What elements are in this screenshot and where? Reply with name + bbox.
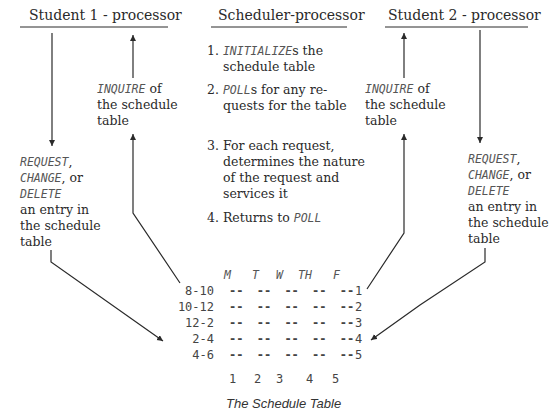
cell: -- — [257, 332, 271, 346]
row-number: 5 — [355, 348, 362, 362]
scheduler-header: Scheduler-processor — [218, 7, 365, 23]
row-label: 10-12 — [178, 300, 214, 314]
text: , or — [510, 167, 531, 182]
text: services it — [207, 186, 365, 202]
table-row: -- -- -- -- -- — [229, 332, 354, 346]
student1-modify-line — [51, 250, 163, 341]
text: table — [20, 234, 101, 250]
student2-modify-line — [371, 248, 485, 340]
cell: -- — [340, 284, 354, 298]
scheduler-step-4: 4. Returns to POLL — [207, 210, 321, 226]
student2-inquire-text: INQUIRE of the schedule table — [365, 81, 446, 129]
student1-header: Student 1 - processor — [29, 7, 182, 23]
cell: -- — [257, 348, 271, 362]
text: an entry in — [20, 202, 101, 218]
cell: -- — [257, 300, 271, 314]
col-header-m: M — [224, 268, 231, 282]
column-number: 3 — [276, 372, 283, 386]
student2-modify-text: REQUEST, CHANGE, or DELETE an entry in t… — [468, 151, 549, 247]
step-number: 3. — [207, 138, 219, 153]
col-header-w: W — [276, 268, 283, 282]
cell: -- — [340, 332, 354, 346]
row-label: 12-2 — [185, 316, 214, 330]
table-row: -- -- -- -- -- — [229, 300, 354, 314]
step-number: 2. — [207, 82, 219, 97]
table-row: -- -- -- -- -- — [229, 316, 354, 330]
text: an entry in — [468, 199, 549, 215]
row-number: 1 — [355, 284, 362, 298]
cell: -- — [229, 332, 243, 346]
cell: -- — [312, 348, 326, 362]
delete-command: DELETE — [468, 184, 510, 198]
change-command: CHANGE — [20, 171, 62, 185]
cell: -- — [229, 300, 243, 314]
request-command: REQUEST — [468, 152, 516, 166]
text: the schedule — [468, 215, 549, 231]
col-header-f: F — [333, 268, 340, 282]
student1-inquire-line — [133, 134, 180, 283]
inquire-command: INQUIRE — [97, 82, 145, 96]
table-caption: The Schedule Table — [226, 396, 341, 411]
cell: -- — [229, 284, 243, 298]
text: of — [145, 81, 161, 96]
cell: -- — [312, 332, 326, 346]
text: the schedule — [20, 218, 101, 234]
step-number: 4. — [207, 210, 219, 225]
column-number: 4 — [306, 372, 313, 386]
col-header-th: TH — [298, 268, 312, 282]
column-number: 1 — [229, 372, 236, 386]
text: schedule table — [207, 59, 323, 75]
change-command: CHANGE — [468, 168, 510, 182]
text: determines the nature — [207, 154, 365, 170]
column-number: 2 — [254, 372, 261, 386]
text: , — [516, 151, 520, 166]
cell: -- — [257, 284, 271, 298]
text: of the request and — [207, 170, 365, 186]
text: s the — [292, 43, 323, 58]
row-number: 4 — [355, 332, 362, 346]
student2-inquire-line — [367, 134, 404, 289]
poll-command: POLL — [223, 83, 251, 97]
text: quests for the table — [207, 98, 347, 114]
text: table — [468, 231, 549, 247]
cell: -- — [257, 316, 271, 330]
cell: -- — [284, 348, 298, 362]
cell: -- — [340, 300, 354, 314]
cell: -- — [229, 316, 243, 330]
table-row: -- -- -- -- -- — [229, 348, 354, 362]
text: the schedule — [365, 97, 446, 113]
cell: -- — [229, 348, 243, 362]
student1-modify-text: REQUEST, CHANGE, or DELETE an entry in t… — [20, 154, 101, 250]
row-number: 2 — [355, 300, 362, 314]
poll-command: POLL — [294, 211, 322, 225]
cell: -- — [284, 300, 298, 314]
inquire-command: INQUIRE — [365, 82, 413, 96]
step-number: 1. — [207, 43, 219, 58]
text: table — [97, 113, 178, 129]
initialize-command: INITIALIZE — [223, 44, 292, 58]
cell: -- — [340, 348, 354, 362]
cell: -- — [312, 316, 326, 330]
cell: -- — [284, 332, 298, 346]
delete-command: DELETE — [20, 187, 62, 201]
cell: -- — [312, 300, 326, 314]
text: For each request, — [223, 138, 335, 153]
student2-header: Student 2 - processor — [388, 7, 541, 23]
text: of — [413, 81, 429, 96]
row-label: 8-10 — [185, 284, 214, 298]
cell: -- — [284, 284, 298, 298]
cell: -- — [284, 316, 298, 330]
col-header-t: T — [252, 268, 259, 282]
text: the schedule — [97, 97, 178, 113]
row-label: 2-4 — [192, 332, 214, 346]
cell: -- — [340, 316, 354, 330]
student1-inquire-text: INQUIRE of the schedule table — [97, 81, 178, 129]
text: s for any re- — [251, 82, 328, 97]
text: table — [365, 113, 446, 129]
row-number: 3 — [355, 316, 362, 330]
text: , or — [62, 170, 83, 185]
scheduler-step-1: 1. INITIALIZEs the schedule table — [207, 43, 323, 75]
request-command: REQUEST — [20, 155, 68, 169]
text: Returns to — [223, 210, 294, 225]
scheduler-step-3: 3. For each request, determines the natu… — [207, 138, 365, 202]
